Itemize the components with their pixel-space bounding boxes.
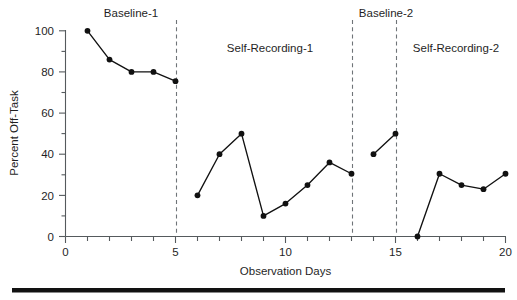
- series-phase-1: [85, 28, 179, 84]
- data-point: [85, 28, 91, 34]
- data-point: [239, 131, 245, 137]
- data-point: [151, 69, 157, 75]
- data-point: [107, 57, 113, 63]
- x-tick-label-5: 5: [172, 246, 178, 258]
- data-point: [305, 182, 311, 188]
- series-line-segment: [374, 134, 396, 155]
- data-point: [393, 131, 399, 137]
- y-tick-label-60: 60: [41, 107, 54, 119]
- x-tick-label-15: 15: [389, 246, 402, 258]
- data-point: [503, 171, 509, 177]
- y-tick-label-0: 0: [48, 231, 54, 243]
- data-point: [437, 171, 443, 177]
- phase-label-self-recording-2: Self-Recording-2: [413, 42, 499, 54]
- x-tick-label-20: 20: [499, 246, 512, 258]
- data-point: [261, 213, 267, 219]
- y-tick-label-40: 40: [41, 148, 54, 160]
- y-tick-label-100: 100: [35, 25, 54, 37]
- data-point: [481, 186, 487, 192]
- y-axis-title: Percent Off-Task: [8, 90, 20, 176]
- data-point: [415, 234, 421, 240]
- data-point: [327, 160, 333, 166]
- series-line-segment: [198, 134, 352, 216]
- data-series-layer: [85, 28, 509, 240]
- percent-off-task-line-chart: 0 20 40 60 80 100: [0, 0, 517, 300]
- data-point: [459, 182, 465, 188]
- data-point: [349, 171, 355, 177]
- data-point: [217, 151, 223, 157]
- data-point: [371, 151, 377, 157]
- series-phase-3: [371, 131, 399, 157]
- y-tick-label-20: 20: [41, 190, 54, 202]
- x-axis-title: Observation Days: [240, 265, 332, 277]
- series-phase-4: [415, 171, 509, 240]
- phase-label-baseline-2: Baseline-2: [359, 7, 413, 19]
- x-axis-ticks: [66, 237, 506, 244]
- data-point: [283, 201, 289, 207]
- phase-labels: Baseline-1 Self-Recording-1 Baseline-2 S…: [104, 7, 499, 54]
- y-axis-ticks: [59, 31, 66, 237]
- x-tick-label-0: 0: [62, 246, 68, 258]
- phase-label-baseline-1: Baseline-1: [104, 7, 158, 19]
- phase-label-self-recording-1: Self-Recording-1: [227, 42, 313, 54]
- x-axis-tick-labels: 0 5 10 15 20: [62, 246, 512, 258]
- x-tick-label-10: 10: [279, 246, 292, 258]
- data-point: [195, 192, 201, 198]
- chart-figure: 0 20 40 60 80 100: [0, 0, 517, 300]
- data-point: [173, 78, 179, 84]
- data-point: [129, 69, 135, 75]
- y-tick-label-80: 80: [41, 66, 54, 78]
- y-axis-tick-labels: 0 20 40 60 80 100: [35, 25, 54, 243]
- series-phase-2: [195, 131, 355, 219]
